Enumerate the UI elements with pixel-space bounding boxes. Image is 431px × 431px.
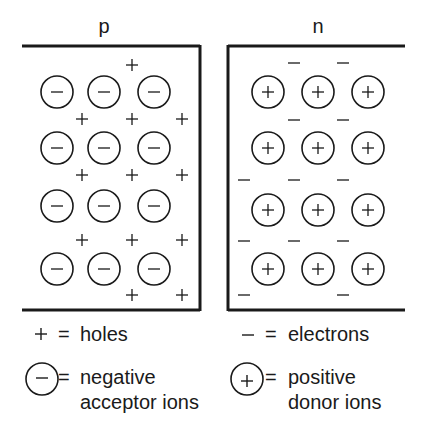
legend-electrons: = electrons [242,323,369,345]
legend-donor-equals: = [265,366,277,388]
holes [76,59,188,301]
legend-donor: = positive donor ions [231,363,381,413]
legend-acceptor-line1: negative [80,366,156,388]
positive-ion-icon [302,76,334,108]
legend-electrons-equals: = [265,323,277,345]
legend-acceptor-line2: acceptor ions [80,391,199,413]
hole-plus-icon [76,234,88,246]
legend-electrons-text: electrons [288,323,369,345]
hole-plus-icon [176,289,188,301]
negative-ion-icon [41,76,73,108]
legend-holes-equals: = [58,323,70,345]
negative-ion-icon [88,132,120,164]
hole-plus-icon [126,234,138,246]
hole-plus-icon [126,289,138,301]
legend-holes-text: holes [80,323,128,345]
n-region-label: n [312,15,323,37]
p-region-box [22,45,200,311]
hole-plus-icon [76,113,88,125]
hole-plus-icon [176,234,188,246]
hole-plus-icon [126,59,138,71]
legend-holes: = holes [35,323,128,345]
hole-plus-icon [76,169,88,181]
hole-plus-icon [126,169,138,181]
negative-ion-icon [88,253,120,285]
positive-ion-icon [252,194,284,226]
pn-junction-diagram: p n = holes = electrons [0,0,431,431]
hole-plus-icon [176,113,188,125]
negative-ion-icon [88,190,120,222]
legend: = holes = electrons = negative acceptor … [26,323,381,413]
circled-plus-icon [231,363,263,395]
hole-plus-icon [126,113,138,125]
positive-ion-icon [352,194,384,226]
positive-ion-icon [352,132,384,164]
hole-plus-icon [176,169,188,181]
negative-ion-icon [41,253,73,285]
legend-donor-line2: donor ions [288,391,381,413]
negative-ion-icon [138,190,170,222]
positive-ion-icon [352,76,384,108]
negative-ion-icon [41,132,73,164]
positive-ion-icon [302,132,334,164]
positive-ion-icon [252,253,284,285]
negative-ion-icon [41,190,73,222]
legend-donor-line1: positive [288,366,356,388]
legend-acceptor-equals: = [58,366,70,388]
negative-ion-icon [138,253,170,285]
positive-ion-icon [252,132,284,164]
p-region-label: p [98,15,109,37]
legend-acceptor: = negative acceptor ions [26,363,199,413]
positive-ion-icon [302,194,334,226]
positive-ion-icon [252,76,284,108]
positive-ion-icon [302,253,334,285]
negative-ion-icon [138,76,170,108]
negative-ion-icon [88,76,120,108]
plus-icon [35,328,47,340]
positive-ion-icon [352,253,384,285]
positive-donor-ions [252,76,384,285]
negative-acceptor-ions [41,76,170,285]
negative-ion-icon [138,132,170,164]
circled-minus-icon [26,363,58,395]
